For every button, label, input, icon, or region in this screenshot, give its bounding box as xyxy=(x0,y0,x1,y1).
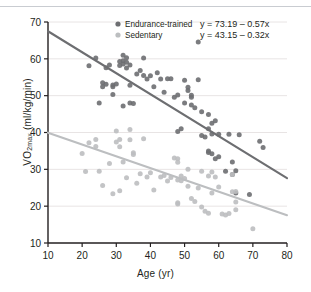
data-point xyxy=(237,132,242,137)
y-axis-label: VO2max (ml/kg/min) xyxy=(17,47,35,197)
x-tick-label: 80 xyxy=(281,250,293,261)
regression-equation: y = 73.19 – 0.57x xyxy=(200,19,270,29)
data-point xyxy=(158,77,163,82)
data-point xyxy=(226,211,231,216)
data-point xyxy=(151,187,156,192)
data-point xyxy=(148,73,153,78)
data-point xyxy=(206,211,211,216)
data-point xyxy=(86,63,91,68)
data-point xyxy=(141,56,146,61)
x-tick-label: 60 xyxy=(213,250,225,261)
data-point xyxy=(250,226,255,231)
data-point xyxy=(100,183,105,188)
data-point xyxy=(117,144,122,149)
data-point xyxy=(168,76,173,81)
data-point xyxy=(110,92,115,97)
data-point xyxy=(145,175,150,180)
data-point xyxy=(141,136,146,141)
data-point xyxy=(175,92,180,97)
data-point xyxy=(114,81,119,86)
data-point xyxy=(196,39,201,44)
y-axis-label-units: (ml/kg/min) xyxy=(22,78,33,133)
x-tick-label: 70 xyxy=(247,250,259,261)
regression-equation: y = 43.15 – 0.32x xyxy=(200,30,270,40)
data-point xyxy=(203,134,208,139)
y-tick-label: 70 xyxy=(30,17,42,28)
data-point xyxy=(199,204,204,209)
data-point xyxy=(192,105,197,110)
data-point xyxy=(182,101,187,106)
data-point xyxy=(127,63,132,68)
x-tick-label: 20 xyxy=(77,250,89,261)
data-point xyxy=(97,169,102,174)
x-axis-label: Age (yr) xyxy=(0,268,311,279)
data-point xyxy=(175,201,180,206)
data-point xyxy=(199,169,204,174)
data-point xyxy=(151,84,156,89)
data-point xyxy=(247,192,252,197)
data-point xyxy=(209,169,214,174)
y-axis-label-main: VO xyxy=(22,151,33,166)
data-point xyxy=(141,73,146,78)
legend-label: Endurance-trained xyxy=(125,20,193,29)
scatter-plot: 102030405060708010203040506070Endurance-… xyxy=(0,0,311,292)
data-point xyxy=(233,189,238,194)
data-point xyxy=(233,200,238,205)
legend-marker xyxy=(115,21,120,26)
x-tick-label: 40 xyxy=(145,250,157,261)
regression-line xyxy=(48,133,287,216)
data-point xyxy=(110,191,115,196)
data-point xyxy=(216,185,221,190)
data-point xyxy=(179,126,184,131)
data-point xyxy=(226,132,231,137)
data-point xyxy=(175,160,180,165)
x-tick-label: 30 xyxy=(111,250,123,261)
data-point xyxy=(165,179,170,184)
data-point xyxy=(216,154,221,159)
x-tick-label: 50 xyxy=(179,250,191,261)
data-point xyxy=(233,168,238,173)
y-tick-label: 10 xyxy=(30,238,42,249)
data-point xyxy=(117,188,122,193)
data-point xyxy=(114,129,119,134)
data-point xyxy=(134,181,139,186)
data-point xyxy=(209,190,214,195)
data-point xyxy=(131,101,136,106)
data-point xyxy=(124,55,129,60)
data-point xyxy=(185,167,190,172)
data-point xyxy=(230,172,235,177)
data-point xyxy=(97,101,102,106)
x-tick-label: 10 xyxy=(42,250,54,261)
y-axis-label-subscript: 2max xyxy=(26,133,33,151)
data-point xyxy=(196,77,201,82)
data-point xyxy=(162,90,167,95)
y-tick-label: 20 xyxy=(30,201,42,212)
data-point xyxy=(121,103,126,108)
data-point xyxy=(213,118,218,123)
legend-label: Sedentary xyxy=(125,31,163,40)
data-point xyxy=(107,161,112,166)
data-point xyxy=(148,170,153,175)
data-point xyxy=(209,151,214,156)
data-point xyxy=(213,175,218,180)
data-point xyxy=(155,70,160,75)
data-point xyxy=(117,137,122,142)
data-point xyxy=(138,171,143,176)
data-point xyxy=(93,137,98,142)
data-point xyxy=(185,184,190,189)
data-point xyxy=(206,173,211,178)
legend-marker xyxy=(115,32,120,37)
data-point xyxy=(80,151,85,156)
data-point xyxy=(206,112,211,117)
data-point xyxy=(127,137,132,142)
data-point xyxy=(138,68,143,73)
regression-line xyxy=(48,31,287,178)
data-point xyxy=(257,139,262,144)
data-point xyxy=(86,140,91,145)
chart-figure: 102030405060708010203040506070Endurance-… xyxy=(0,0,311,292)
data-point xyxy=(131,152,136,157)
data-point xyxy=(124,175,129,180)
data-point xyxy=(104,82,109,87)
data-point xyxy=(127,127,132,132)
data-point xyxy=(223,169,228,174)
